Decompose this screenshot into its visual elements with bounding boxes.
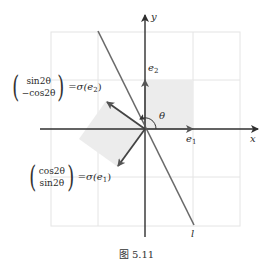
- figure-5-11: y x e2 e1 θ l ( sin2θ −cos2θ ) =σ(e2) ( …: [0, 0, 273, 278]
- left-paren: (: [29, 162, 36, 192]
- right-paren: ): [58, 72, 65, 102]
- right-paren: ): [67, 162, 74, 192]
- sigma-e2-label: ( sin2θ −cos2θ ) =σ(e2): [10, 72, 102, 102]
- line-l-label: l: [191, 229, 194, 239]
- figure-caption: 图 5.11: [0, 246, 273, 261]
- reflected-square: [79, 101, 145, 167]
- theta-label: θ: [159, 111, 165, 121]
- diagram-canvas: [0, 0, 273, 278]
- sigma-e1-label: ( cos2θ sin2θ ) =σ(e1): [27, 162, 111, 192]
- sigma-e2-equation: =σ(e2): [68, 81, 101, 94]
- sigma-e1-equation: =σ(e1): [78, 171, 111, 184]
- unit-square: [145, 80, 193, 129]
- matrix-column: sin2θ −cos2θ: [22, 75, 56, 99]
- matrix-column: cos2θ sin2θ: [39, 165, 65, 189]
- e1-label: e1: [186, 134, 196, 146]
- left-paren: (: [12, 72, 19, 102]
- x-axis-label: x: [250, 134, 256, 144]
- y-axis-label: y: [151, 12, 157, 22]
- e2-label: e2: [148, 63, 158, 75]
